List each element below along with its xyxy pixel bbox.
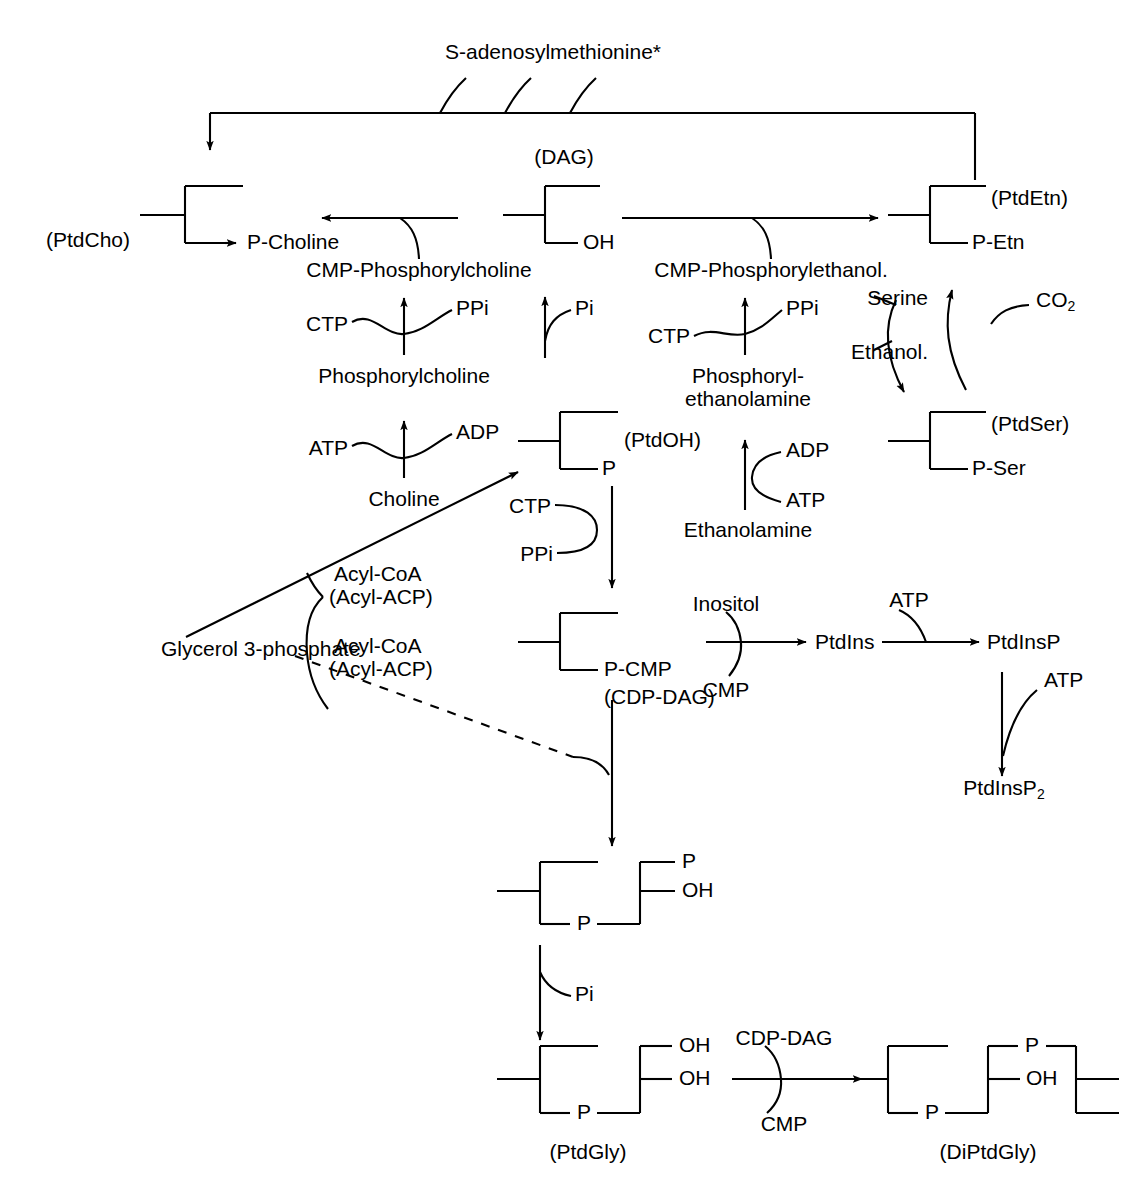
diptdgly-label: (DiPtdGly): [940, 1140, 1037, 1164]
ethanol-label: Ethanol.: [851, 340, 928, 364]
choline-label: Choline: [368, 487, 439, 511]
sam-label: S-adenosylmethionine*: [445, 40, 661, 64]
ptdoh-p-label: P: [602, 456, 616, 480]
p-etn-label: P-Etn: [972, 230, 1025, 254]
ethanolamine-label: Ethanolamine: [684, 518, 812, 542]
cdp-dag-cofactor-label: CDP-DAG: [736, 1026, 833, 1050]
p-choline-label: P-Choline: [247, 230, 339, 254]
ptdgly-oh1-label: OH: [679, 1033, 711, 1057]
cmp-label-2: CMP: [761, 1112, 808, 1136]
adp-label-2: ADP: [786, 438, 829, 462]
glycerol3p-to-ptdoh-arrow: [186, 472, 518, 637]
ppi-label-1: PPi: [456, 296, 489, 320]
serine-label: Serine: [867, 286, 928, 310]
adp-atp-curve: [752, 452, 781, 502]
ptdgly-oh2-label: OH: [679, 1066, 711, 1090]
ptdcho-label: (PtdCho): [46, 228, 130, 252]
pi-label-1: Pi: [575, 296, 594, 320]
ptdser-to-ptdetn-arrow: [948, 290, 966, 390]
acyl-coa-label-2-line2: (Acyl-ACP): [329, 657, 433, 681]
inositol-cmp-curve: [726, 612, 741, 676]
ctp-label-1: CTP: [306, 312, 348, 336]
acyl-coa-label-1-line1: Acyl-CoA: [334, 562, 422, 586]
sam-curve-2: [505, 78, 531, 113]
cmp-phosphorylethanol-hook: [752, 218, 771, 259]
ptdgly-label: (PtdGly): [549, 1140, 626, 1164]
ptdinsp2-label: PtdInsP2: [963, 776, 1044, 803]
atp-label-3: ATP: [889, 588, 928, 612]
cmp-phosphorylcholine-label: CMP-Phosphorylcholine: [306, 258, 531, 282]
phosphorylethanolamine-line1: Phosphoryl-: [692, 364, 804, 388]
ctp-ppi-curve-3: [555, 505, 597, 553]
diptdgly-bridge-p-label: P: [925, 1100, 939, 1124]
p-ser-label: P-Ser: [972, 456, 1026, 480]
ptdoh-label: (PtdOH): [624, 428, 701, 452]
pi-hook-2: [540, 972, 571, 996]
cmp-label-1: CMP: [703, 678, 750, 702]
co2-label: CO2: [1036, 288, 1075, 315]
acyl-coa-label-1-line2: (Acyl-ACP): [329, 585, 433, 609]
cmp-phosphorylcholine-hook: [400, 218, 419, 259]
ppi-label-2: PPi: [786, 296, 819, 320]
sam-curve-1: [440, 78, 466, 113]
ptdser-label: (PtdSer): [991, 412, 1069, 436]
ppi-label-3: PPi: [520, 542, 553, 566]
acyl-coa-label-2-line1: Acyl-CoA: [334, 634, 422, 658]
adp-label-1: ADP: [456, 420, 499, 444]
ctp-ppi-curve-1: [352, 310, 452, 334]
sam-curve-3: [570, 78, 596, 113]
inositol-label: Inositol: [693, 592, 760, 616]
atp-label-2: ATP: [786, 488, 825, 512]
pi-hook-1: [545, 310, 571, 341]
pi-label-2: Pi: [575, 982, 594, 1006]
atp-label-4: ATP: [1044, 668, 1083, 692]
p-cmp-label: P-CMP: [604, 657, 672, 681]
co2-tail: [991, 305, 1029, 324]
dag-label: (DAG): [534, 145, 594, 169]
intermediate-bridge-p-label: P: [577, 911, 591, 935]
ptdgly-bridge-p-label: P: [577, 1100, 591, 1124]
cmp-phosphorylethanol-label: CMP-Phosphorylethanol.: [654, 258, 887, 282]
phosphorylethanolamine-line2: ethanolamine: [685, 387, 811, 411]
pathway-diagram: S-adenosylmethionine* (PtdCho) P-Choline…: [0, 0, 1144, 1204]
ctp-ppi-curve-2: [694, 310, 782, 336]
ctp-label-3: CTP: [509, 494, 551, 518]
atp-label-1: ATP: [309, 436, 348, 460]
atp-hook-3: [899, 610, 926, 642]
diptdgly-oh-label: OH: [1026, 1066, 1058, 1090]
acyl-coa-top-tail: [307, 573, 323, 597]
cdp-dag-label: (CDP-DAG): [604, 685, 715, 709]
ptdinsp-label: PtdInsP: [987, 630, 1061, 654]
atp-adp-curve-1: [352, 434, 452, 458]
ptdetn-label: (PtdEtn): [991, 186, 1068, 210]
atp-hook-4: [1003, 690, 1037, 756]
glycerol3p-dashed-hook: [573, 757, 609, 775]
pathway-svg: [0, 0, 1144, 1204]
intermediate-p-top-label: P: [682, 849, 696, 873]
ctp-label-2: CTP: [648, 324, 690, 348]
dag-oh-label: OH: [583, 230, 615, 254]
intermediate-oh-label: OH: [682, 878, 714, 902]
diptdgly-p-top-label: P: [1025, 1033, 1039, 1057]
phosphorylcholine-label: Phosphorylcholine: [318, 364, 490, 388]
ptdins-label: PtdIns: [815, 630, 875, 654]
